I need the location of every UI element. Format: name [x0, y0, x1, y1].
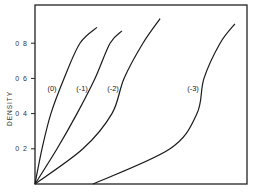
y-axis-ticks: 0 20 40 60 8	[15, 40, 35, 153]
density-curve	[93, 24, 235, 184]
density-curve	[35, 31, 122, 184]
y-tick-label: 0 2	[15, 145, 28, 152]
y-axis-title: DENSITY	[6, 91, 13, 126]
y-tick-label: 0 8	[15, 40, 28, 47]
curve-label: (-3)	[187, 84, 199, 93]
curve-group	[35, 19, 235, 184]
curve-label: (-1)	[76, 84, 88, 93]
plot-frame	[35, 5, 247, 184]
curve-labels: (0)(-1)(-2)(-3)	[47, 84, 199, 93]
density-curve	[35, 19, 160, 184]
y-tick-label: 0 4	[15, 110, 28, 117]
density-chart: 0 20 40 60 8 DENSITY (0)(-1)(-2)(-3)	[0, 0, 258, 196]
curve-label: (-2)	[107, 84, 119, 93]
density-curve	[35, 27, 97, 184]
curve-label: (0)	[47, 84, 57, 93]
y-tick-label: 0 6	[15, 75, 28, 82]
